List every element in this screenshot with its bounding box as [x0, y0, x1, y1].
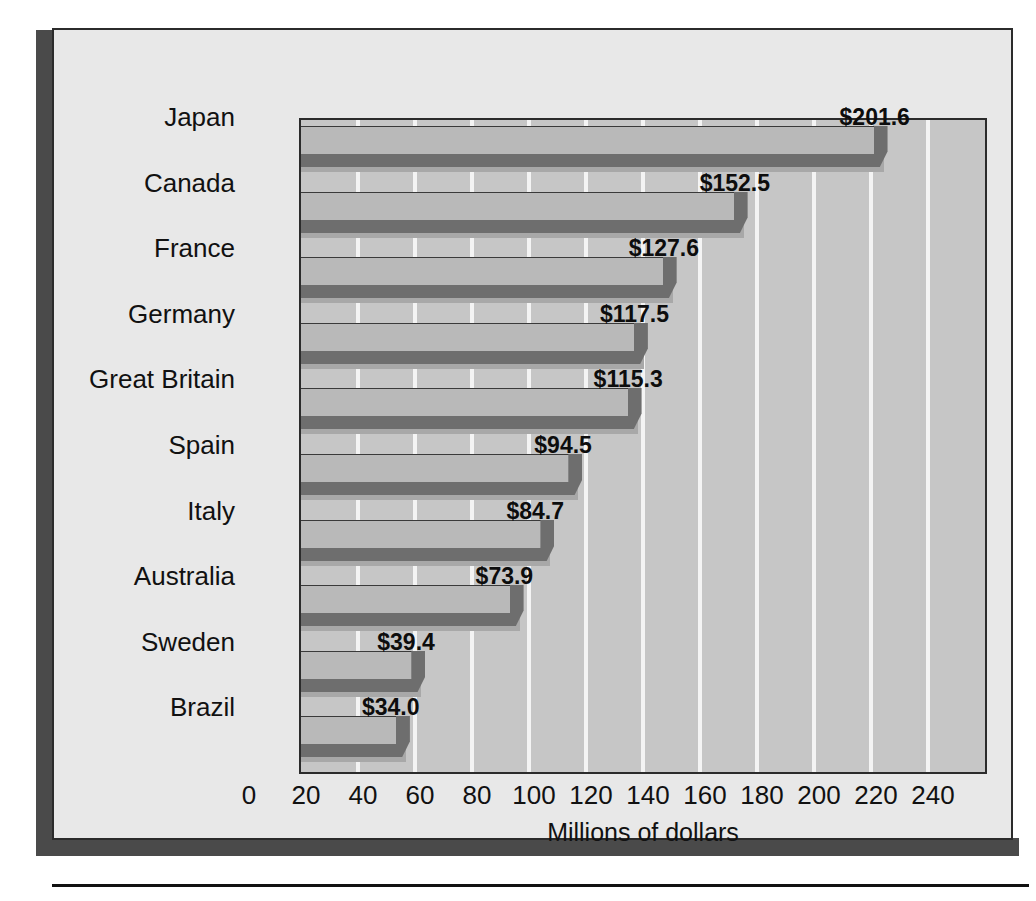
- value-label: $115.3: [594, 368, 663, 391]
- value-label: $127.6: [629, 237, 699, 260]
- x-tick-label: 60: [406, 782, 435, 808]
- value-label: $117.5: [600, 303, 669, 326]
- bar-top-face: [301, 126, 876, 155]
- value-label: $201.6: [840, 106, 910, 129]
- bar-end-cap: [734, 192, 748, 233]
- category-label: Brazil: [5, 694, 235, 720]
- category-label: Sweden: [5, 629, 235, 655]
- category-label: France: [5, 235, 235, 261]
- bar-front-face: [301, 154, 876, 167]
- chart-figure: JapanCanadaFranceGermanyGreat BritainSpa…: [0, 0, 1036, 901]
- x-tick-label: 160: [683, 782, 726, 808]
- category-label: Spain: [5, 432, 235, 458]
- bar-top-face: [301, 257, 665, 286]
- bar-front-face: [301, 351, 636, 364]
- chart-panel: JapanCanadaFranceGermanyGreat BritainSpa…: [52, 28, 1013, 840]
- bar-top-face: [301, 454, 570, 483]
- bar: [301, 120, 890, 186]
- bar-end-cap: [663, 257, 677, 298]
- value-label: $152.5: [700, 172, 770, 195]
- bar-end-cap: [634, 323, 648, 364]
- x-axis-title: Millions of dollars: [299, 820, 987, 845]
- bar-front-face: [301, 744, 398, 757]
- bar-end-cap: [628, 388, 642, 429]
- x-tick-label: 180: [740, 782, 783, 808]
- category-label: Italy: [5, 498, 235, 524]
- category-label: Germany: [5, 301, 235, 327]
- plot-area: [299, 118, 987, 774]
- bar-front-face: [301, 548, 542, 561]
- value-label: $73.9: [476, 565, 534, 588]
- bar-end-cap: [874, 126, 888, 167]
- x-tick-label: 200: [797, 782, 840, 808]
- bar-top-face: [301, 323, 636, 352]
- x-tick-label: 100: [512, 782, 555, 808]
- x-tick-label: 140: [626, 782, 669, 808]
- x-tick-label: 40: [349, 782, 378, 808]
- bar-end-cap: [510, 585, 524, 626]
- x-tick-label: 0: [242, 782, 256, 808]
- x-tick-label: 20: [292, 782, 321, 808]
- value-label: $84.7: [506, 500, 564, 523]
- gridline: [812, 120, 816, 772]
- bar-top-face: [301, 192, 736, 221]
- value-label: $39.4: [377, 631, 435, 654]
- value-label: $34.0: [362, 696, 420, 719]
- category-label: Japan: [5, 104, 235, 130]
- bar-end-cap: [568, 454, 582, 495]
- bar-top-face: [301, 388, 630, 417]
- category-label: Great Britain: [5, 366, 235, 392]
- bar-end-cap: [396, 716, 410, 757]
- gridline: [926, 120, 930, 772]
- bar-top-face: [301, 716, 398, 745]
- bottom-rule: [52, 884, 1029, 887]
- value-label: $94.5: [534, 434, 592, 457]
- bar: [301, 382, 644, 448]
- bar-front-face: [301, 220, 736, 233]
- gridline: [869, 120, 873, 772]
- bar-front-face: [301, 613, 512, 626]
- x-tick-label: 80: [463, 782, 492, 808]
- bar-front-face: [301, 285, 665, 298]
- x-tick-label: 240: [911, 782, 954, 808]
- bar-front-face: [301, 679, 413, 692]
- bar-top-face: [301, 651, 413, 680]
- bar-end-cap: [540, 520, 554, 561]
- x-tick-label: 220: [854, 782, 897, 808]
- category-label: Australia: [5, 563, 235, 589]
- gridline: [755, 120, 759, 772]
- bar-top-face: [301, 585, 512, 614]
- bar-top-face: [301, 520, 542, 549]
- category-label: Canada: [5, 170, 235, 196]
- bar-front-face: [301, 482, 570, 495]
- bar-front-face: [301, 416, 630, 429]
- bar-end-cap: [411, 651, 425, 692]
- x-tick-label: 120: [569, 782, 612, 808]
